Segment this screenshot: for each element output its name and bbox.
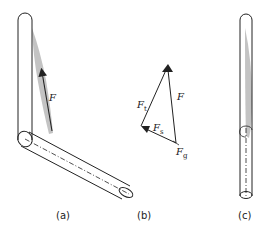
label-fs-sub: s bbox=[160, 128, 164, 136]
label-fg-sub: g bbox=[183, 152, 188, 160]
shaded-region-c bbox=[245, 28, 252, 138]
vertical-tube-a bbox=[15, 13, 35, 149]
label-f: F bbox=[176, 91, 185, 102]
arrowhead-top bbox=[162, 64, 173, 72]
angled-tube bbox=[21, 132, 135, 200]
arrowhead-fs bbox=[141, 126, 150, 133]
vector-f bbox=[168, 70, 176, 143]
panel-c: (c) bbox=[238, 14, 252, 221]
centerline-a bbox=[25, 139, 129, 194]
vector-ft bbox=[141, 70, 166, 126]
label-ft-sub: t bbox=[144, 105, 147, 113]
force-label-f-a: F bbox=[48, 92, 57, 103]
panel-a: F (a) bbox=[15, 13, 135, 221]
caption-c: (c) bbox=[238, 210, 251, 221]
diagram-canvas: F (a) F t F F s F g (b) bbox=[0, 0, 268, 237]
panel-b: F t F F s F g (b) bbox=[136, 64, 188, 221]
caption-a: (a) bbox=[56, 210, 70, 221]
caption-b: (b) bbox=[137, 210, 151, 221]
